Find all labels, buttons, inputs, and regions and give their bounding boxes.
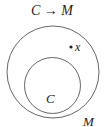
outer-label-m: M [82,114,95,127]
title: C → M [31,3,74,18]
diagram: C → M x C M [0,0,105,127]
point-label-x: x [74,40,81,54]
point-dot [69,45,72,48]
inner-label-c: C [46,91,55,106]
